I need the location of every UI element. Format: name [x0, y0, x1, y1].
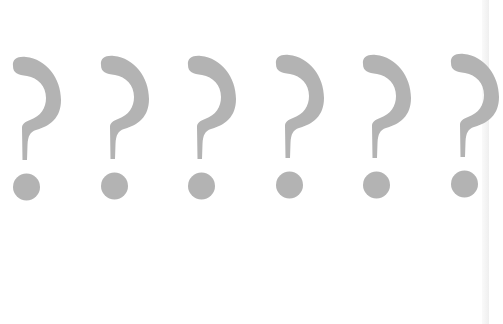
- question-mark-2: ?: [88, 0, 178, 323]
- question-mark-icon: [175, 0, 265, 323]
- question-mark-icon: [350, 0, 440, 322]
- question-mark-icon: [88, 0, 178, 323]
- question-mark-5: ?: [350, 0, 440, 322]
- question-mark-4: ?: [263, 0, 353, 322]
- question-mark-icon: [0, 0, 90, 324]
- question-mark-1: ?: [0, 0, 90, 324]
- question-mark-icon: [263, 0, 353, 322]
- question-mark-3: ?: [175, 0, 265, 323]
- question-mark-6: ?: [438, 0, 503, 321]
- question-mark-icon: [438, 0, 503, 321]
